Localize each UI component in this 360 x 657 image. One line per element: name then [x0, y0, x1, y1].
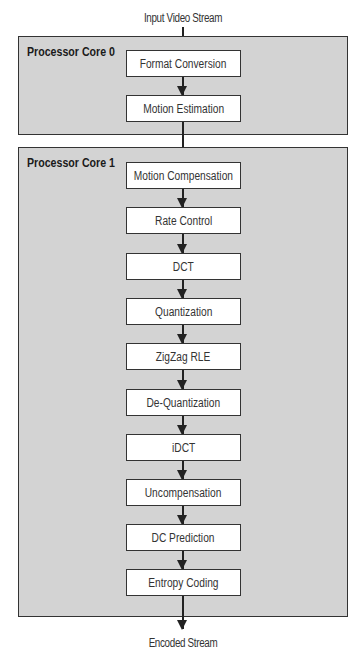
input-label: Input Video Stream — [33, 11, 333, 25]
arrow — [182, 551, 184, 569]
arrow — [182, 506, 184, 524]
arrow — [182, 461, 184, 479]
output-label: Encoded Stream — [33, 636, 333, 650]
arrow — [182, 416, 184, 434]
core-label: Processor Core 1 — [27, 156, 115, 170]
arrow — [182, 234, 184, 253]
arrow — [182, 370, 184, 389]
step-dc-prediction: DC Prediction — [126, 524, 241, 551]
arrow — [182, 280, 184, 298]
step-format-conversion: Format Conversion — [126, 50, 241, 77]
step-quantization: Quantization — [126, 298, 241, 325]
step-idct: iDCT — [126, 434, 241, 461]
core-label: Processor Core 0 — [27, 45, 115, 59]
step-uncompensation: Uncompensation — [126, 479, 241, 506]
arrow — [182, 325, 184, 343]
step-motion-estimation: Motion Estimation — [126, 95, 241, 122]
step-entropy-coding: Entropy Coding — [126, 569, 241, 596]
step-de-quantization: De-Quantization — [126, 389, 241, 416]
step-rate-control: Rate Control — [126, 207, 241, 234]
step-motion-compensation: Motion Compensation — [126, 162, 241, 189]
step-dct: DCT — [126, 253, 241, 280]
arrow-output — [182, 596, 184, 629]
step-zigzag-rle: ZigZag RLE — [126, 343, 241, 370]
arrow — [182, 77, 184, 95]
arrow — [182, 189, 184, 207]
